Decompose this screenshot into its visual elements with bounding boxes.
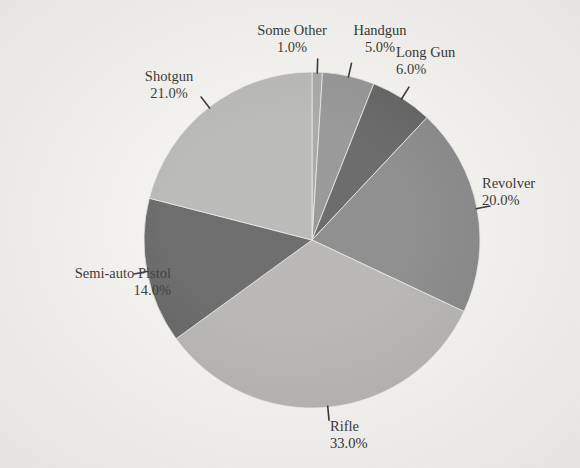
pie-label-name-semi-auto-pistol: Semi-auto Pistol	[75, 265, 171, 281]
pie-label-value-revolver: 20.0%	[482, 192, 574, 209]
pie-label-rifle: Rifle33.0%	[330, 418, 410, 452]
pie-label-semi-auto-pistol: Semi-auto Pistol14.0%	[26, 265, 171, 299]
pie-label-some-other: Some Other1.0%	[244, 22, 340, 56]
pie-label-shotgun: Shotgun21.0%	[126, 68, 212, 102]
pie-chart: Some Other 1.0%Handgun 5.0%Long Gun 6.0%…	[0, 0, 580, 468]
pie-label-value-long-gun: 6.0%	[396, 61, 486, 78]
pie-label-name-revolver: Revolver	[482, 175, 535, 191]
pie-label-value-semi-auto-pistol: 14.0%	[26, 282, 171, 299]
pie-label-name-long-gun: Long Gun	[396, 44, 455, 60]
pie-slice-group: Some Other 1.0%Handgun 5.0%Long Gun 6.0%…	[144, 72, 480, 408]
pie-chart-canvas: Some Other 1.0%Handgun 5.0%Long Gun 6.0%…	[0, 0, 580, 468]
pie-label-name-shotgun: Shotgun	[145, 68, 193, 84]
leader-line-handgun	[348, 63, 351, 77]
pie-label-name-rifle: Rifle	[330, 418, 359, 434]
pie-label-value-some-other: 1.0%	[244, 39, 340, 56]
pie-label-value-rifle: 33.0%	[330, 435, 410, 452]
pie-label-long-gun: Long Gun6.0%	[396, 44, 486, 78]
pie-label-value-shotgun: 21.0%	[126, 85, 212, 102]
pie-label-revolver: Revolver20.0%	[482, 175, 574, 209]
leader-line-long-gun	[401, 87, 409, 99]
pie-label-name-some-other: Some Other	[257, 22, 327, 38]
leader-line-rifle	[328, 406, 329, 420]
pie-label-name-handgun: Handgun	[353, 22, 406, 38]
